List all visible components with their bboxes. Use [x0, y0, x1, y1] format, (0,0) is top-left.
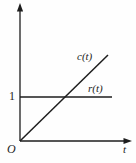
y-axis-tick-label-1: 1 — [9, 90, 15, 102]
revenue-line-label: r(t) — [88, 83, 103, 94]
cost-line — [20, 55, 108, 141]
y-axis-arrowhead — [17, 3, 23, 12]
x-axis-label: t — [123, 144, 126, 155]
cost-line-label: c(t) — [77, 51, 92, 62]
origin-label: O — [7, 143, 16, 155]
plot-canvas — [0, 0, 136, 163]
line-graph-figure: O t 1 c(t) r(t) — [0, 0, 136, 163]
